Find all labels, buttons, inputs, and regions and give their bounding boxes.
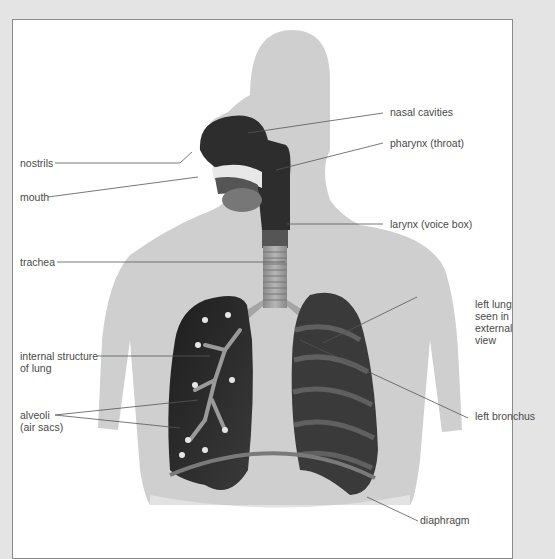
label-left-bronchus: left bronchus [475, 410, 535, 422]
label-nasal-cavities: nasal cavities [390, 106, 453, 118]
label-diaphragm: diaphragm [420, 514, 470, 526]
label-left-lung: left lung seen in external view [475, 298, 512, 346]
label-larynx: larynx (voice box) [390, 218, 472, 230]
label-left-lung-line3: external [475, 322, 512, 334]
label-nostrils: nostrils [20, 157, 53, 169]
label-left-lung-line2: seen in [475, 310, 512, 322]
label-alveoli: alveoli (air sacs) [20, 409, 63, 433]
label-alveoli-line2: (air sacs) [20, 421, 63, 433]
label-left-lung-line4: view [475, 334, 512, 346]
label-pharynx: pharynx (throat) [390, 137, 464, 149]
label-internal-line1: internal structure [20, 350, 98, 362]
label-left-lung-line1: left lung [475, 298, 512, 310]
label-internal-structure: internal structure of lung [20, 350, 98, 374]
label-trachea: trachea [20, 256, 55, 268]
label-alveoli-line1: alveoli [20, 409, 63, 421]
label-mouth: mouth [20, 191, 49, 203]
label-internal-line2: of lung [20, 362, 98, 374]
